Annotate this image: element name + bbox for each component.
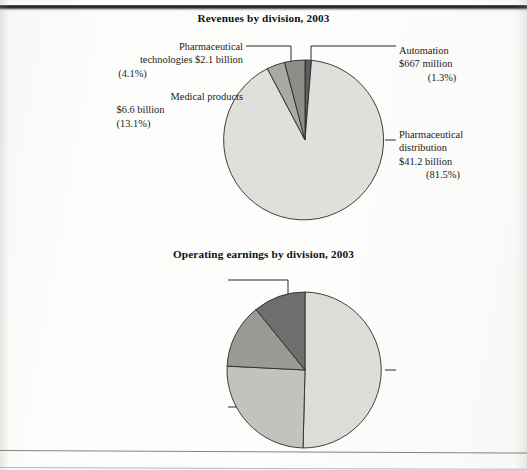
- pie-chart-operating-earnings: [0, 232, 527, 462]
- leader-line-automation: [228, 280, 288, 294]
- callout-revenues-pharmaceutical-distribution: Pharmaceutical distribution $41.2 billio…: [399, 128, 527, 182]
- callout-revenues-medical-products: Medical products $6.6 billion (13.1%): [58, 90, 243, 130]
- chart-operating-earnings-by-division: Operating earnings by division, 2003 Aut…: [0, 232, 527, 462]
- pie-slice-pharmaceutical-distribution: [303, 292, 381, 448]
- callout-revenues-automation: Automation $667 million (1.3%): [399, 44, 527, 84]
- pie-slice-medical-products: [227, 366, 305, 448]
- callout-revenues-pharmaceutical-technologies: Pharmaceutical technologies $2.1 billion…: [58, 40, 243, 80]
- pie-slices-earnings: [227, 292, 381, 448]
- pie-slices-revenues: [224, 60, 384, 220]
- leader-line-automation: [311, 46, 396, 60]
- leader-line-pharmtech: [246, 46, 291, 64]
- chart-revenues-by-division: Revenues by division, 2003 Pharmaceutica…: [0, 0, 527, 235]
